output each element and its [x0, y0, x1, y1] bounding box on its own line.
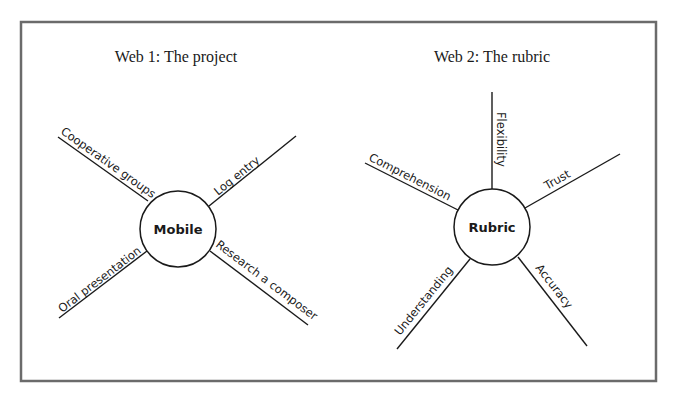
spoke-label: Research a composer: [213, 237, 320, 323]
concept-web-diagram: Web 1: The project Cooperative groupsLog…: [0, 0, 674, 398]
spoke-label: Comprehension: [367, 150, 454, 203]
spoke-line: [518, 257, 587, 346]
web-project: Web 1: The project Cooperative groupsLog…: [55, 48, 320, 325]
spoke-label: Understanding: [391, 263, 455, 338]
spoke-label: Flexibility: [494, 112, 508, 167]
diagram-frame: [21, 22, 656, 381]
spoke-line: [210, 251, 308, 325]
spoke-label: Oral presentation: [55, 243, 143, 315]
web-title: Web 2: The rubric: [434, 48, 550, 65]
web-rubric: Web 2: The rubric FlexibilityComprehensi…: [365, 48, 620, 349]
spoke-label: Log entry: [211, 153, 262, 198]
spoke-label: Cooperative groups: [58, 124, 158, 201]
spoke-line: [58, 137, 148, 201]
hub-label: Rubric: [468, 220, 515, 235]
web-title: Web 1: The project: [115, 48, 238, 66]
hub-label: Mobile: [154, 222, 203, 237]
spoke-line: [397, 259, 470, 349]
spoke-line: [525, 154, 620, 208]
